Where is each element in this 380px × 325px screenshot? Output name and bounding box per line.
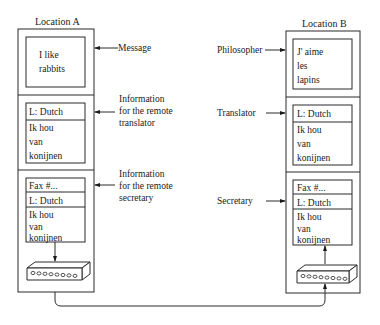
translator-line: van xyxy=(29,137,43,147)
fax-machine-icon xyxy=(27,262,90,280)
message-line: lapins xyxy=(297,75,320,85)
fax-header: Fax #... xyxy=(297,183,326,193)
secretary-box-a: Fax #... L: Dutch Ik hou van konijnen xyxy=(26,178,85,243)
annotation-translator-info: Information xyxy=(119,94,165,104)
secretary-line: konijnen xyxy=(29,233,62,243)
location-b: Location B J' aime les lapins L: Dutch I… xyxy=(217,18,360,293)
annotation-secretary: Secretary xyxy=(217,196,253,206)
location-a: Location A I like rabbits L: Dutch Ik ho… xyxy=(18,16,173,292)
annotation-translator-info: for the remote xyxy=(119,106,173,116)
translator-line: konijnen xyxy=(297,153,330,163)
message-box-b: J' aime les lapins xyxy=(293,39,352,89)
secretary-line: Ik hou xyxy=(297,212,322,222)
translator-line: Ik hou xyxy=(297,125,322,135)
fax-machine-icon xyxy=(297,265,357,283)
fax-header: Fax #... xyxy=(29,181,58,191)
secretary-line: van xyxy=(297,224,311,234)
message-box-a: I like rabbits xyxy=(26,37,85,87)
translator-line: van xyxy=(297,139,311,149)
translator-box-b: L: Dutch Ik hou van konijnen xyxy=(293,105,352,165)
annotation-translator-info: translator xyxy=(119,118,156,128)
secretary-box-b: Fax #... L: Dutch Ik hou van konijnen xyxy=(293,180,352,245)
secretary-line: konijnen xyxy=(297,235,330,245)
secretary-line: van xyxy=(29,222,43,232)
translator-line: konijnen xyxy=(29,151,62,161)
language-header: L: Dutch xyxy=(297,198,331,208)
message-line: J' aime xyxy=(297,47,323,57)
message-line: les xyxy=(297,61,308,71)
translator-box-a: L: Dutch Ik hou van konijnen xyxy=(26,103,85,163)
location-b-label: Location B xyxy=(302,18,347,29)
transmission-line xyxy=(55,284,325,306)
language-header: L: Dutch xyxy=(29,107,63,117)
language-header: L: Dutch xyxy=(297,109,331,119)
annotation-translator: Translator xyxy=(217,108,257,118)
annotation-secretary-info: for the remote xyxy=(119,181,173,191)
secretary-line: Ik hou xyxy=(29,210,54,220)
annotation-message: Message xyxy=(118,43,151,53)
message-line: I like xyxy=(39,50,59,60)
annotation-secretary-info: Information xyxy=(119,169,165,179)
language-header: L: Dutch xyxy=(29,196,63,206)
message-line: rabbits xyxy=(39,64,65,74)
translator-line: Ik hou xyxy=(29,123,54,133)
annotation-secretary-info: secretary xyxy=(119,193,154,203)
annotation-philosopher: Philosopher xyxy=(217,45,263,55)
location-a-label: Location A xyxy=(35,16,80,27)
protocol-diagram: Location A I like rabbits L: Dutch Ik ho… xyxy=(0,0,380,325)
